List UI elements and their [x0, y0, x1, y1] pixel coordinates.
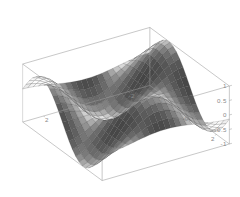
surface-mesh	[23, 40, 230, 168]
z-tick-mark	[229, 100, 232, 101]
tick-label: 0	[87, 104, 91, 111]
z-tick-mark	[229, 143, 232, 144]
tick-label: 0.5	[217, 97, 227, 104]
z-tick-mark	[229, 114, 232, 115]
tick-label: 2	[211, 135, 215, 142]
surface-plot-figure: -1-0.500.51-202-202	[0, 0, 240, 197]
z-tick-mark	[229, 85, 232, 86]
tick-label: 2	[45, 116, 49, 123]
plot-canvas: -1-0.500.51-202-202	[0, 0, 240, 197]
tick-label: -2	[129, 92, 135, 99]
tick-label: 0	[223, 111, 227, 118]
x-tick-mark	[215, 134, 216, 135]
tick-label: 0	[185, 115, 189, 122]
tick-label: 1	[223, 82, 227, 89]
tick-label: -1	[221, 140, 227, 147]
z-tick-mark	[229, 129, 232, 130]
tick-label: -0.5	[215, 126, 227, 133]
tick-label: -2	[157, 96, 163, 103]
